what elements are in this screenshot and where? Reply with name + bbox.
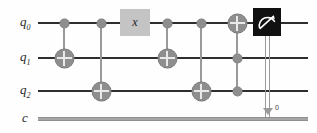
meter-icon [257, 13, 277, 31]
measure-link-line [265, 32, 270, 117]
quantum-circuit-diagram: q0 q1 q2 c x 0 [0, 0, 317, 133]
wire-label-q1-index: 1 [27, 58, 31, 67]
wire-c [38, 117, 308, 121]
x-gate[interactable]: x [120, 9, 150, 36]
control-dot-cnot-3[interactable] [163, 19, 172, 28]
wire-label-q1: q1 [20, 50, 31, 67]
toffoli-target[interactable] [228, 14, 247, 33]
control-dot-cnot-1[interactable] [60, 19, 69, 28]
wire-label-c: c [22, 111, 28, 124]
cnot-target-cnot-1[interactable] [55, 49, 74, 68]
wire-label-q2: q2 [20, 83, 31, 100]
control-dot-cnot-4[interactable] [197, 19, 206, 28]
classical-bit-index: 0 [275, 104, 279, 111]
cnot-target-cnot-2[interactable] [92, 82, 111, 101]
wire-label-q0: q0 [20, 15, 31, 32]
wire-label-q0-index: 0 [27, 23, 31, 32]
wire-label-q2-index: 2 [27, 91, 31, 100]
cnot-target-cnot-3[interactable] [158, 49, 177, 68]
measure-arrow-icon [263, 108, 273, 115]
link-cnot-4 [200, 23, 202, 91]
control-dot-cnot-2[interactable] [97, 19, 106, 28]
link-cnot-2 [100, 23, 102, 91]
control-dot-toffoli-q2[interactable] [233, 87, 242, 96]
control-dot-toffoli-q1[interactable] [233, 54, 242, 63]
cnot-target-cnot-4[interactable] [192, 82, 211, 101]
measure-gate[interactable] [253, 8, 281, 36]
